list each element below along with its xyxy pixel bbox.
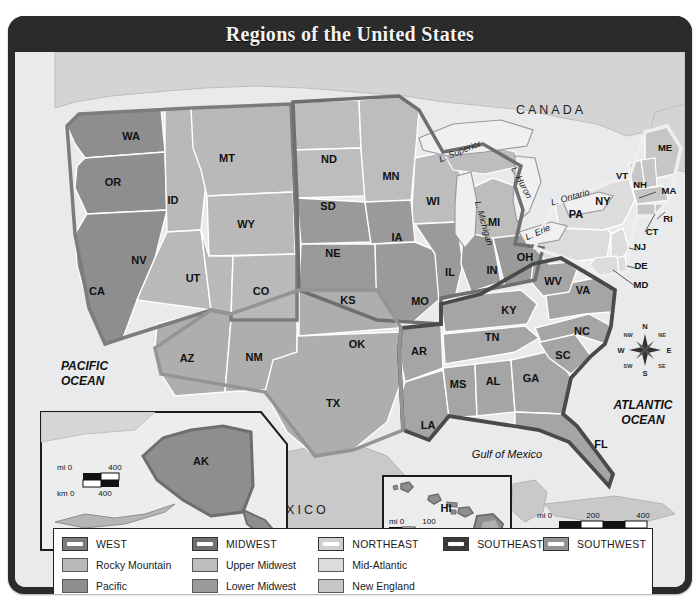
- legend-item-upper-midwest[interactable]: Upper Midwest: [192, 556, 318, 573]
- legend-swatch-mid-atlantic: [318, 558, 344, 572]
- legend-column-northeast: NORTHEAST Mid-Atlantic New England: [318, 535, 443, 594]
- legend-swatch-new-england: [318, 579, 344, 593]
- legend-item-pacific[interactable]: Pacific: [62, 578, 192, 594]
- state-label-WY: WY: [237, 218, 255, 230]
- map-title-bar: Regions of the United States: [8, 16, 692, 52]
- main-scale-mi-label: mi 0: [537, 511, 553, 520]
- hawaii-scale-mi-tick-100: 100: [422, 517, 436, 526]
- state-label-NJ: NJ: [634, 241, 646, 252]
- state-label-AL: AL: [486, 375, 501, 387]
- state-label-NV: NV: [131, 254, 147, 266]
- state-label-CA: CA: [89, 285, 105, 297]
- compass-northwest-label: NW: [623, 332, 633, 338]
- map-page: Regions of the United States: [0, 0, 700, 604]
- state-label-NE: NE: [325, 247, 340, 259]
- legend-item-new-england[interactable]: New England: [318, 578, 443, 594]
- state-label-ME: ME: [658, 142, 672, 153]
- legend-swatch-pacific: [62, 579, 88, 593]
- map-legend[interactable]: WEST Rocky Mountain Pacific MIDWEST: [53, 528, 653, 594]
- ocean-label-1: OCEAN: [61, 374, 105, 388]
- hawaii-island-lanai: [451, 510, 456, 514]
- legend-header-southeast[interactable]: SOUTHEAST: [443, 535, 543, 553]
- state-label-MD: MD: [634, 279, 649, 290]
- state-label-LA: LA: [421, 419, 436, 431]
- state-CT[interactable]: [637, 204, 655, 216]
- legend-item-mid-atlantic[interactable]: Mid-Atlantic: [318, 556, 443, 573]
- ocean-label-0: PACIFIC: [61, 359, 108, 373]
- legend-label-northeast: NORTHEAST: [352, 538, 418, 550]
- legend-column-southeast: SOUTHEAST: [443, 535, 543, 594]
- state-label-VA: VA: [576, 284, 591, 296]
- state-label-OK: OK: [349, 338, 366, 350]
- legend-swatch-southeast: [443, 537, 469, 551]
- main-scale-mi-tick-200: 200: [586, 511, 600, 520]
- state-label-NM: NM: [245, 351, 262, 363]
- state-label-WA: WA: [122, 130, 140, 142]
- compass-southwest-label: SW: [624, 363, 634, 369]
- legend-header-midwest[interactable]: MIDWEST: [192, 535, 318, 552]
- state-label-IN: IN: [487, 264, 498, 276]
- gulf-of-mexico-label: Gulf of Mexico: [472, 448, 542, 460]
- alaska-scale-mi-tick-400: 400: [108, 463, 122, 472]
- state-label-TX: TX: [326, 397, 341, 409]
- state-label-WI: WI: [426, 195, 439, 207]
- state-ND[interactable]: [293, 100, 361, 150]
- legend-header-west[interactable]: WEST: [62, 535, 192, 552]
- state-MS[interactable]: [443, 364, 477, 418]
- legend-swatch-lower-midwest: [192, 579, 218, 593]
- legend-header-southwest[interactable]: SOUTHWEST: [543, 535, 646, 553]
- state-AL[interactable]: [475, 360, 515, 416]
- compass-south-label: S: [642, 369, 647, 378]
- state-IA[interactable]: [365, 200, 415, 244]
- state-label-OR: OR: [105, 176, 122, 188]
- state-label-AR: AR: [411, 345, 427, 357]
- legend-swatch-midwest: [192, 537, 218, 551]
- state-label-MO: MO: [411, 295, 429, 307]
- compass-west-label: W: [617, 346, 625, 355]
- hawaii-scale-mi-label: mi 0: [389, 517, 405, 526]
- map-svg[interactable]: WAORCAIDMTWYNVUTCONDSDMNWIMINEKSIAMOILIN…: [15, 52, 685, 587]
- country-label-canada: CANADA: [516, 103, 586, 117]
- state-label-NY: NY: [595, 195, 611, 207]
- legend-label-southeast: SOUTHEAST: [477, 538, 543, 550]
- map-frame: Regions of the United States: [8, 16, 692, 594]
- legend-swatch-upper-midwest: [192, 558, 218, 572]
- main-scale-mi-tick-400: 400: [636, 511, 650, 520]
- legend-label-midwest: MIDWEST: [226, 538, 277, 550]
- state-label-RI: RI: [663, 213, 673, 224]
- state-label-NH: NH: [633, 179, 647, 190]
- state-label-PA: PA: [569, 208, 584, 220]
- compass-east-label: E: [666, 346, 671, 355]
- legend-label-pacific: Pacific: [96, 580, 127, 592]
- legend-item-rocky-mountain[interactable]: Rocky Mountain: [62, 556, 192, 573]
- legend-swatch-rocky-mountain: [62, 558, 88, 572]
- legend-label-rocky-mountain: Rocky Mountain: [96, 559, 171, 571]
- state-label-KS: KS: [340, 294, 355, 306]
- state-MN[interactable]: [359, 96, 419, 202]
- ocean-label-2: ATLANTIC: [612, 398, 672, 412]
- state-label-VT: VT: [616, 170, 628, 181]
- state-label-ND: ND: [321, 153, 337, 165]
- lake-michigan: [455, 172, 477, 248]
- legend-label-west: WEST: [96, 538, 127, 550]
- state-MT[interactable]: [191, 104, 293, 196]
- ocean-label-3: OCEAN: [621, 413, 665, 427]
- state-label-AZ: AZ: [180, 352, 195, 364]
- state-label-DE: DE: [634, 260, 647, 271]
- state-label-KY: KY: [501, 304, 517, 316]
- state-label-OH: OH: [517, 251, 534, 263]
- state-label-WV: WV: [544, 275, 562, 287]
- legend-swatch-northeast: [318, 537, 344, 551]
- state-label-UT: UT: [186, 272, 201, 284]
- legend-item-lower-midwest[interactable]: Lower Midwest: [192, 578, 318, 594]
- compass-north-label: N: [642, 322, 647, 331]
- state-label-ID: ID: [168, 194, 179, 206]
- map-canvas[interactable]: WAORCAIDMTWYNVUTCONDSDMNWIMINEKSIAMOILIN…: [15, 52, 685, 587]
- state-label-TN: TN: [485, 331, 500, 343]
- compass-southeast-label: SE: [658, 363, 666, 369]
- legend-header-northeast[interactable]: NORTHEAST: [318, 535, 443, 552]
- legend-label-southwest: SOUTHWEST: [577, 538, 646, 550]
- hawaii-island-niihau: [393, 485, 398, 490]
- state-label-FL: FL: [594, 438, 608, 450]
- alaska-scale-km-label: km 0: [57, 489, 75, 498]
